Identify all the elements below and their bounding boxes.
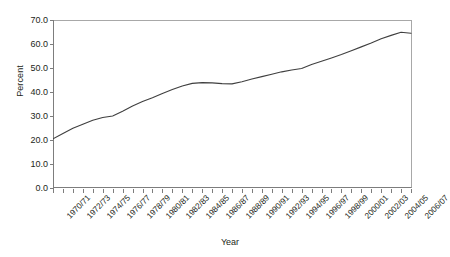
- x-axis-title: Year: [200, 237, 260, 247]
